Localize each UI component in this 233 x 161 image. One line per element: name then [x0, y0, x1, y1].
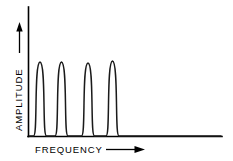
x-axis-label: FREQUENCY — [35, 144, 103, 155]
right-arrow-icon — [106, 146, 145, 153]
up-arrow-icon — [16, 22, 22, 53]
plot-canvas: AMPLITUDE FREQUENCY — [0, 0, 233, 161]
spectrum-trace — [30, 61, 222, 136]
y-axis-label: AMPLITUDE — [13, 69, 24, 131]
spectrum-figure: AMPLITUDE FREQUENCY — [0, 0, 233, 161]
